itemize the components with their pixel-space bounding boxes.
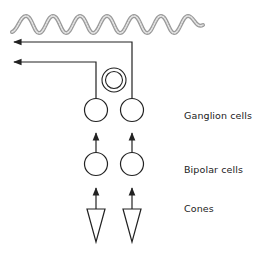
retina-pathway-diagram (0, 0, 260, 253)
output-arrow-upper (14, 42, 132, 99)
cones-label: Cones (184, 203, 214, 214)
bipolar-cell-left (85, 153, 108, 176)
light-wave (12, 16, 203, 33)
bipolar-cell-right (121, 153, 144, 176)
ganglion-cells-label: Ganglion cells (184, 110, 252, 121)
ganglion-cell-right (121, 99, 144, 122)
cone-right (123, 209, 141, 242)
cone-left (87, 209, 105, 242)
bipolar-cells-label: Bipolar cells (184, 164, 243, 175)
output-arrow-lower (14, 62, 96, 99)
double-ring-cell (102, 68, 126, 92)
ganglion-cell-left (85, 99, 108, 122)
